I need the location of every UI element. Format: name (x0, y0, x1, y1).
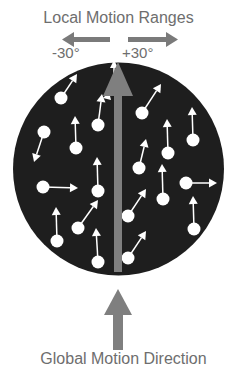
global-motion-arrow-icon (104, 289, 132, 350)
global-motion-direction-label: Global Motion Direction (0, 350, 237, 368)
right-range-arrow-icon (128, 32, 178, 47)
left-range-arrow-icon (62, 32, 110, 47)
motion-diagram (0, 0, 237, 379)
